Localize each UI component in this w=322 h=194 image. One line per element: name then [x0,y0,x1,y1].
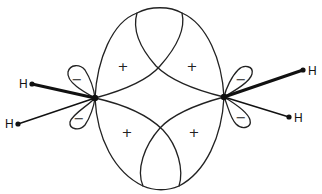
hydrogen-dot-h2 [15,121,20,126]
carbon-atom-c2 [221,94,227,100]
hydrogen-label-h2: H [5,117,14,131]
inner-lobe-c2-down [140,97,224,186]
minus-sign-c2-upper: − [236,72,247,87]
hydrogen-dot-h4 [286,114,291,119]
bond-c2-h4 [224,97,289,117]
outer-lobe-top [95,8,224,98]
plus-sign-top-left: + [118,59,129,74]
inner-lobe-c2-up [136,13,224,97]
ethylene-bent-bond-diagram: H H H H + + + + − − − − [0,0,322,194]
plus-sign-bottom-right: + [189,125,200,140]
minus-sign-c1-lower: − [74,111,85,126]
hydrogen-label-h3: H [308,64,317,78]
hydrogen-dot-h3 [300,67,305,72]
minus-sign-c1-upper: − [72,72,83,87]
plus-sign-bottom-left: + [122,125,133,140]
plus-sign-top-right: + [187,59,198,74]
bond-c1-h1 [32,84,95,98]
hydrogen-dot-h1 [29,81,34,86]
outer-lobe-bottom [95,97,224,190]
inner-lobe-c1-down [95,98,181,186]
hydrogen-label-h4: H [294,111,303,125]
carbon-atom-c1 [92,95,98,101]
inner-lobe-c1-up [95,13,183,98]
hydrogen-label-h1: H [19,77,28,91]
minus-sign-c2-lower: − [236,110,247,125]
